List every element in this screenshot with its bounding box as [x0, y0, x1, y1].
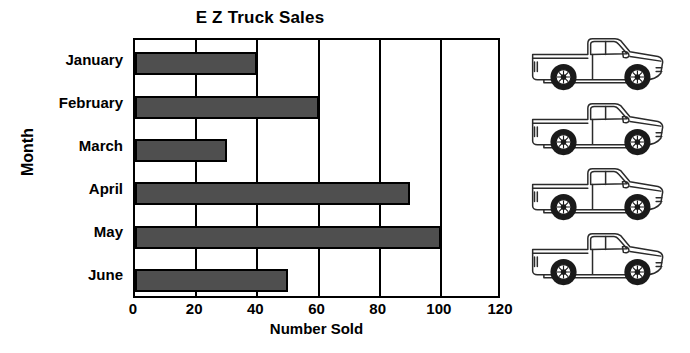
pickup-truck-icon — [524, 229, 676, 287]
y-tick-label-0: January — [65, 52, 123, 68]
bars-layer — [135, 40, 498, 296]
x-tick-label-3: 60 — [308, 300, 325, 317]
y-tick-label-1: February — [59, 95, 123, 111]
bar-january — [135, 52, 257, 75]
x-tick-label-1: 20 — [186, 300, 203, 317]
bar-march — [135, 139, 227, 162]
x-tick-label-6: 120 — [487, 300, 512, 317]
x-axis-title: Number Sold — [133, 320, 500, 337]
bar-may — [135, 226, 441, 249]
pickup-truck-icon — [524, 164, 676, 222]
pickup-truck-icon — [524, 34, 676, 92]
pickup-truck-icon — [524, 99, 676, 157]
y-tick-label-3: April — [89, 181, 123, 197]
plot-area — [133, 38, 500, 298]
bar-june — [135, 269, 288, 292]
chart-title: E Z Truck Sales — [0, 8, 520, 28]
x-tick-label-0: 0 — [129, 300, 137, 317]
x-tick-label-2: 40 — [247, 300, 264, 317]
x-tick-label-5: 100 — [426, 300, 451, 317]
bar-april — [135, 182, 410, 205]
x-tick-label-4: 80 — [369, 300, 386, 317]
truck-illustration-column — [520, 34, 685, 304]
bar-february — [135, 96, 319, 119]
y-tick-label-4: May — [94, 224, 123, 240]
y-tick-label-5: June — [88, 267, 123, 283]
y-tick-label-2: March — [79, 138, 123, 154]
y-axis-tick-labels: January February March April May June — [40, 38, 129, 298]
chart-container: E Z Truck Sales Month January February M… — [0, 0, 690, 353]
y-axis-title: Month — [19, 102, 37, 202]
